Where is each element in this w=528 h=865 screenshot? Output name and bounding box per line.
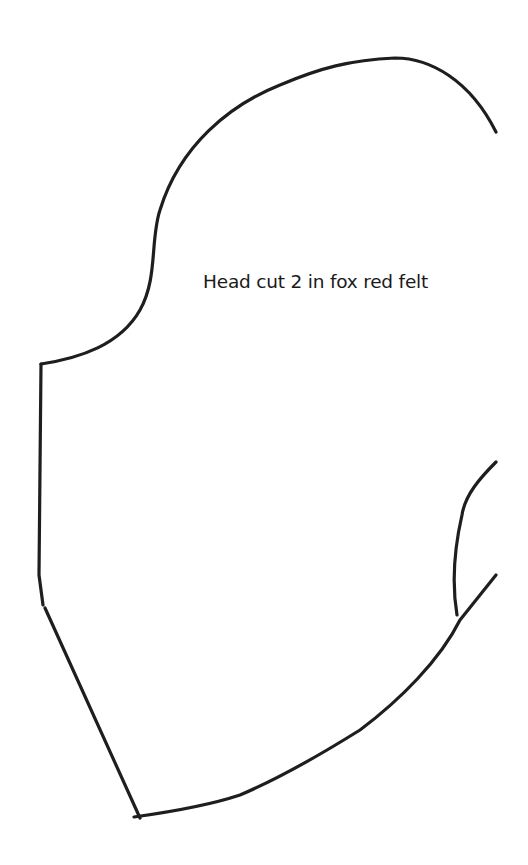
pattern-page: Head cut 2 in fox red felt: [0, 0, 528, 865]
outline-bottom-curve: [134, 575, 496, 817]
outline-left-edge: [39, 364, 43, 605]
outline-ear-notch: [454, 462, 496, 615]
outline-top-curve: [41, 58, 496, 364]
head-pattern-outline: [0, 0, 528, 865]
outline-lower-left-edge: [45, 608, 140, 818]
pattern-piece-label: Head cut 2 in fox red felt: [203, 271, 428, 292]
